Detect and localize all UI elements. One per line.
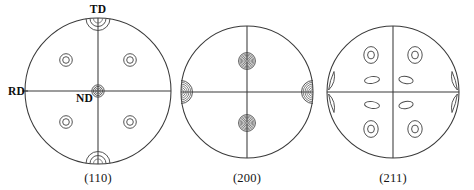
pole-lower-right-110 <box>124 116 137 129</box>
pole-lower-right-211 <box>408 121 422 138</box>
pole-inner-lower-left-211 <box>364 101 380 110</box>
pole-lower-left-211 <box>364 121 378 138</box>
pole-inner-upper-right-211 <box>398 75 413 85</box>
pole-figure-panel-211: (211) <box>327 26 459 185</box>
pole-inner-upper-left-211 <box>364 76 380 85</box>
pole-upper-right-110 <box>124 54 137 67</box>
pole-figure-container: RD TD ND (110) <box>0 0 474 190</box>
pole-figure-panel-200: (200) <box>181 26 313 185</box>
pole-upper-right-211 <box>408 47 422 64</box>
pole-lower-left-110 <box>60 116 73 129</box>
pole-figure-svg: RD TD ND (110) <box>0 0 474 190</box>
nd-axis-label: ND <box>76 92 93 104</box>
panel-caption-110: (110) <box>84 171 112 185</box>
panel-caption-211: (211) <box>379 171 407 185</box>
pole-upper-left-110 <box>60 54 73 67</box>
rd-axis-label: RD <box>8 85 25 97</box>
pole-figure-panel-110: RD TD ND (110) <box>8 3 171 185</box>
pole-inner-lower-right-211 <box>398 100 413 110</box>
pole-upper-left-211 <box>364 47 378 64</box>
td-axis-label: TD <box>90 3 106 15</box>
panel-caption-200: (200) <box>233 171 261 185</box>
